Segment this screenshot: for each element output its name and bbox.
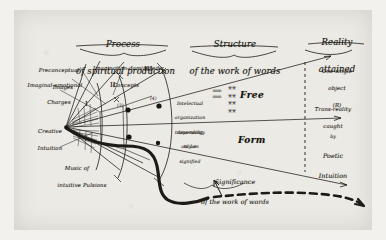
word-free: Free [240, 91, 264, 100]
header-right-line1: Reality [300, 38, 374, 47]
object-line1: One single [308, 69, 366, 75]
node-dot-4 [156, 103, 161, 108]
node-dot-3 [125, 107, 130, 112]
diagram-page: Process of spiritual production Structur… [0, 0, 386, 240]
word-form: Form [238, 136, 266, 145]
center-upper-line1: Intelectual [168, 102, 212, 107]
star-glyphs: ✳ ✳ ✳ ✳ ✳ ✳ ✳ ✳ [226, 84, 238, 114]
header-left-line1: Process [76, 40, 170, 49]
roman-numeral-iii: III [144, 66, 153, 73]
header-center-line1: Structure [188, 40, 282, 49]
star-glyph-column: ✳ ✳ ✳ ✳ ✳ ✳ ✳ ✳ [226, 84, 238, 114]
imaginal-line1: Imaginal-emotional [22, 83, 88, 89]
header-center: Structure of the work of words [188, 22, 282, 93]
creative-line2: Intuition [26, 146, 74, 152]
marker-3: (3) [117, 103, 124, 108]
trans-line3: by [300, 135, 366, 140]
roman-numeral-i: I [85, 101, 88, 108]
label-poetic-intuition: by Poetic Intuition [300, 122, 366, 193]
bottom-caption-line1: Significance [182, 179, 288, 186]
music-line1: Music of [34, 166, 120, 172]
header-center-line2: of the work of words [188, 67, 282, 76]
label-music-of-intuitive-pulsions: Music of intuitive Pulsions [34, 155, 120, 200]
center-lower-line1: trans-reality [166, 131, 214, 136]
node-dot-lower [126, 134, 131, 139]
marker-4: (4) [150, 96, 157, 101]
node-dot-lower-2 [156, 141, 160, 145]
music-line2: intuitive Pulsions [44, 183, 120, 189]
creative-line1: Creative [26, 129, 74, 135]
roman-numeral-ii: II [110, 82, 116, 89]
bottom-caption-line2: of the work of words [182, 199, 288, 206]
center-lower-line2: to be [166, 145, 214, 150]
imaginal-line2: Charges [30, 100, 88, 106]
center-lower-line3: signified [166, 160, 214, 165]
imagination-line2: Concepts [88, 83, 164, 89]
label-imagination-dominated-concepts: Imagination-dominated Concepts [88, 55, 164, 100]
object-line2: object [308, 86, 366, 92]
bottom-caption: Significance of the work of words [182, 166, 288, 219]
bead-glyph-column: o o o o o o o o [212, 88, 222, 101]
trans-line4: Poetic [300, 153, 366, 160]
trans-line1: Trans-reality [300, 107, 366, 113]
trans-line5: Intuition [300, 173, 366, 180]
bead-glyphs: o o o o o o o o [212, 88, 222, 101]
label-imaginal-emotional-charges: Imaginal-emotional Charges [22, 72, 88, 117]
